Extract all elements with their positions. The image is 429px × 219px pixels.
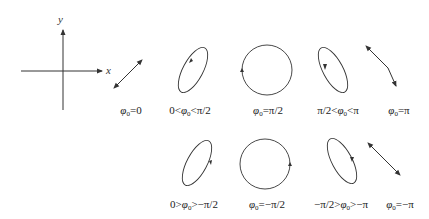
diagram-canvas — [0, 0, 429, 219]
y-axis-label: y — [58, 13, 63, 25]
double-arrow-icon — [114, 60, 142, 88]
label-phi-negpi2: φ0=−π/2 — [249, 198, 285, 214]
polarization-diagram: y x φ0=0 0<φ0<π/2 φ0=π/2 π/2<φ0<π φ0=π 0… — [0, 0, 429, 219]
shape-ellipse-0-to-negpi2 — [176, 136, 217, 190]
shape-ellipse-pi2-to-pi — [312, 43, 353, 97]
label-phi-0-to-negpi2: 0>φ0>−π/2 — [170, 198, 218, 214]
rotation-arrow-icon — [189, 58, 193, 63]
label-phi-negpi2-to-negpi: −π/2>φ0>−π — [314, 198, 368, 214]
shape-circle-negpi2 — [240, 139, 292, 189]
label-phi-pi2-to-pi: π/2<φ0<π — [317, 104, 359, 120]
label-phi-0-to-pi2: 0<φ0<π/2 — [169, 104, 211, 120]
double-arrow-icon — [385, 160, 400, 175]
shape-phi-pi — [366, 46, 396, 86]
coordinate-axes — [21, 30, 102, 110]
label-phi-negpi: φ0=−π — [386, 198, 414, 214]
rotation-arrow-icon — [240, 68, 244, 72]
double-arrow-icon — [366, 46, 388, 68]
double-arrow-icon — [368, 143, 385, 160]
label-phi-0: φ0=0 — [120, 104, 141, 120]
x-axis-label: x — [106, 64, 111, 76]
shape-phi-negpi — [368, 143, 400, 175]
label-phi-pi: φ0=π — [388, 104, 409, 120]
rotation-arrow-icon — [323, 64, 327, 70]
label-phi-pi2: φ0=π/2 — [253, 104, 283, 120]
shape-phi-0 — [114, 60, 142, 88]
double-arrow-icon — [388, 68, 396, 86]
shape-circle-pi2 — [240, 45, 292, 95]
shape-ellipse-negpi2-to-negpi — [321, 134, 362, 188]
shape-ellipse-0-to-pi2 — [172, 43, 213, 97]
rotation-arrow-icon — [288, 162, 292, 166]
